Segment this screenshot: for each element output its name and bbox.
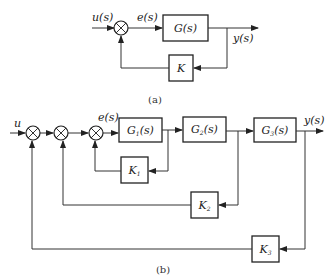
error-label-b: e(s) (98, 111, 119, 124)
summing-junction-3-icon (89, 126, 103, 140)
output-label-b: y(s) (303, 114, 324, 127)
input-label-b: u (14, 117, 21, 130)
output-label-a: y(s) (232, 32, 253, 45)
feedback-return-a (121, 36, 169, 68)
caption-b: (b) (156, 264, 170, 275)
feedback-path-k3 (280, 131, 305, 249)
summing-junction-2-icon (54, 126, 68, 140)
diagram-b: u e(s) G1(s) G2(s) (10, 111, 324, 275)
error-label-a: e(s) (137, 11, 158, 24)
block-g1-label: G1(s) (127, 124, 154, 137)
block-g-label: G(s) (174, 22, 197, 35)
caption-a: (a) (148, 94, 162, 105)
block-diagrams: u(s) e(s) G(s) y(s) K (a) u (0, 0, 329, 279)
summing-junction-icon (114, 21, 128, 35)
diagram-a: u(s) e(s) G(s) y(s) K (a) (92, 11, 258, 105)
block-k-label: K (176, 62, 186, 75)
feedback-return-k1 (95, 141, 121, 171)
block-g2-label: G2(s) (191, 123, 218, 136)
block-g3-label: G3(s) (262, 124, 289, 137)
summing-junction-1-icon (26, 126, 40, 140)
input-label-a: u(s) (92, 11, 113, 24)
